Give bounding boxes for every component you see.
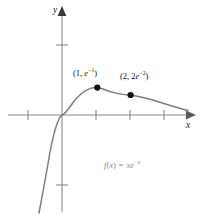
function-curve [39, 87, 188, 213]
plot-canvas [0, 0, 205, 215]
function-graph-figure: y x (1, e−1) (2, 2e−2) f(x) = xe−x [0, 0, 205, 215]
data-point-1 [94, 85, 100, 91]
x-axis-arrow-icon [186, 111, 196, 120]
y-axis-arrow-icon [58, 6, 67, 16]
data-point-2 [128, 92, 134, 98]
